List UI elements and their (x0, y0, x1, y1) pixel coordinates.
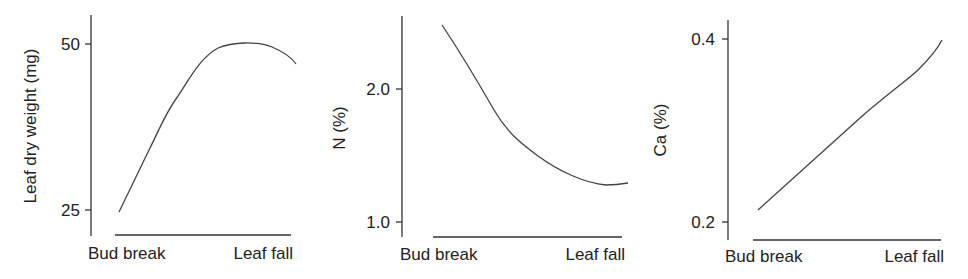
calcium-curve (758, 40, 942, 210)
x-label-leaf-fall: Leaf fall (884, 247, 944, 266)
x-label-bud-break: Bud break (400, 245, 478, 264)
y-tick-label-top: 50 (61, 35, 80, 54)
x-label-leaf-fall: Leaf fall (565, 245, 625, 264)
panel-leaf-dry-weight: 50 25 Leaf dry weight (mg) Bud break Lea… (21, 15, 296, 263)
leaf-dry-weight-curve (119, 43, 296, 212)
y-axis-title: Leaf dry weight (mg) (21, 49, 40, 204)
panel-nitrogen: 2.0 1.0 N (%) Bud break Leaf fall (330, 16, 628, 264)
panel-calcium: 0.4 0.2 Ca (%) Bud break Leaf fall (651, 20, 944, 266)
x-label-bud-break: Bud break (88, 244, 166, 263)
y-tick-label-top: 0.4 (691, 30, 715, 49)
y-tick-label-top: 2.0 (366, 80, 390, 99)
y-axis-title: Ca (%) (651, 104, 670, 157)
x-label-leaf-fall: Leaf fall (233, 244, 293, 263)
nitrogen-curve (442, 25, 628, 185)
y-axis-title: N (%) (330, 106, 349, 149)
x-label-bud-break: Bud break (725, 247, 803, 266)
y-tick-label-bottom: 1.0 (366, 213, 390, 232)
y-tick-label-bottom: 25 (61, 201, 80, 220)
y-tick-label-bottom: 0.2 (691, 213, 715, 232)
figure: 50 25 Leaf dry weight (mg) Bud break Lea… (0, 0, 968, 279)
